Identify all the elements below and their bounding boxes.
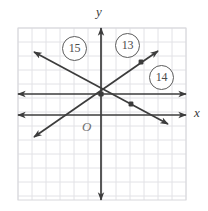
data-point-marker bbox=[129, 102, 134, 107]
x-axis-label: x bbox=[194, 106, 200, 119]
intersection-point-marker bbox=[98, 91, 103, 96]
coordinate-grid-figure: y x O 151314 bbox=[0, 0, 208, 211]
callout-badge-13: 13 bbox=[115, 33, 140, 58]
callout-badge-14: 14 bbox=[149, 65, 174, 90]
origin-label: O bbox=[82, 120, 91, 133]
graph-canvas bbox=[0, 0, 208, 211]
y-axis-label: y bbox=[96, 5, 102, 18]
data-point-marker bbox=[139, 60, 144, 65]
grid-lines bbox=[18, 28, 186, 200]
callout-badge-15: 15 bbox=[62, 36, 87, 61]
